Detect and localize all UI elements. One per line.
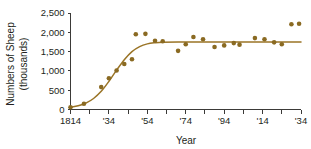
data-point (114, 68, 119, 73)
y-tick-label: 2,500 (41, 7, 65, 18)
data-point (253, 36, 258, 41)
x-tick-label: 1814 (60, 115, 81, 126)
data-point (134, 32, 139, 37)
data-point (107, 76, 112, 81)
data-point (262, 37, 267, 42)
y-tick-label: 1,500 (41, 46, 65, 57)
x-tick-label: '74 (180, 115, 192, 126)
y-tick-label: 2,000 (41, 27, 65, 38)
data-point (279, 42, 284, 47)
data-point (237, 42, 242, 47)
y-axis-title-line2: (thousands) (18, 38, 29, 91)
data-point (130, 57, 135, 62)
data-point (122, 62, 127, 67)
data-point (222, 43, 227, 48)
data-point (153, 38, 158, 43)
data-point (201, 37, 206, 42)
data-point (82, 101, 87, 106)
data-point (183, 42, 188, 47)
x-axis-tick-labels: 1814'34'54'74'94'14'34 (60, 115, 307, 126)
data-point (160, 39, 165, 44)
data-point (176, 49, 181, 54)
x-tick-label: '54 (141, 115, 153, 126)
y-tick-label: 500 (49, 85, 65, 96)
x-tick-label: '14 (256, 115, 268, 126)
data-point (68, 105, 73, 110)
y-tick-label: 0 (59, 104, 64, 115)
data-point (289, 22, 294, 27)
sheep-population-chart: 05001,0001,5002,0002,500 1814'34'54'74'9… (0, 0, 311, 149)
data-point (99, 85, 104, 90)
x-tick-label: '94 (218, 115, 230, 126)
data-point (143, 32, 148, 37)
x-axis-ticks (71, 110, 302, 114)
x-tick-label: '34 (103, 115, 115, 126)
data-point (272, 40, 277, 45)
data-point-group (68, 22, 301, 110)
data-point (297, 22, 302, 27)
y-axis-tick-labels: 05001,0001,5002,0002,500 (41, 7, 65, 115)
logistic-fit-curve (71, 42, 302, 107)
chart-canvas: 05001,0001,5002,0002,500 1814'34'54'74'9… (0, 0, 311, 149)
y-tick-label: 1,000 (41, 65, 65, 76)
data-point (191, 35, 196, 40)
x-axis-title: Year (176, 135, 197, 146)
data-point (231, 41, 236, 46)
data-point (212, 45, 217, 50)
y-axis-title-line1: Numbers of Sheep (5, 22, 16, 106)
x-tick-label: '34 (295, 115, 307, 126)
